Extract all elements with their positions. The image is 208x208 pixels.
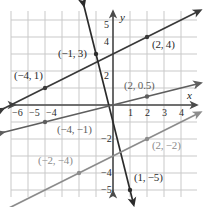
x-axis-letter: x <box>187 90 192 101</box>
x-tick-2: 2 <box>145 108 150 118</box>
data-point <box>145 137 149 141</box>
y-tick-2: 2 <box>104 71 109 81</box>
y-axis-letter: y <box>120 12 125 23</box>
x-tick-4: 4 <box>179 108 184 118</box>
x-tick-3: 3 <box>162 108 167 118</box>
y-tick-neg2: −2 <box>101 134 112 144</box>
data-point <box>94 52 98 56</box>
y-tick-neg5: −5 <box>101 185 112 195</box>
y-tick-5: 5 <box>104 20 109 30</box>
x-tick-neg4: −4 <box>46 108 57 118</box>
data-point <box>43 120 47 124</box>
coordinate-plane-figure: −6−5−41234542−2−4−5 (−1, 3)(2, 4)(−4, 1)… <box>0 0 208 207</box>
point-label-2-05: (2, 0.5) <box>124 80 154 91</box>
point-label-neg4-neg1: (−4, −1) <box>57 124 92 135</box>
point-label-neg4-1: (−4, 1) <box>14 70 43 81</box>
x-tick-neg5: −5 <box>29 108 40 118</box>
y-tick-4: 4 <box>104 37 109 47</box>
point-label-neg2-neg4: (−2, −4) <box>38 155 73 166</box>
point-label-neg1-3: (−1, 3) <box>58 48 87 59</box>
data-point <box>145 94 149 98</box>
point-label-1-neg5: (1, −5) <box>134 172 163 183</box>
data-point <box>43 86 47 90</box>
data-point <box>145 35 149 39</box>
plot-line-line-d <box>1 114 198 208</box>
x-tick-neg6: −6 <box>12 108 23 118</box>
data-point <box>128 188 132 192</box>
y-tick-neg4: −4 <box>101 168 112 178</box>
plot-line-line-a <box>1 12 198 111</box>
point-label-2-neg2: (2, −2) <box>152 140 181 151</box>
data-point <box>77 171 81 175</box>
point-label-2-4: (2, 4) <box>152 39 175 50</box>
x-tick-1: 1 <box>128 108 133 118</box>
